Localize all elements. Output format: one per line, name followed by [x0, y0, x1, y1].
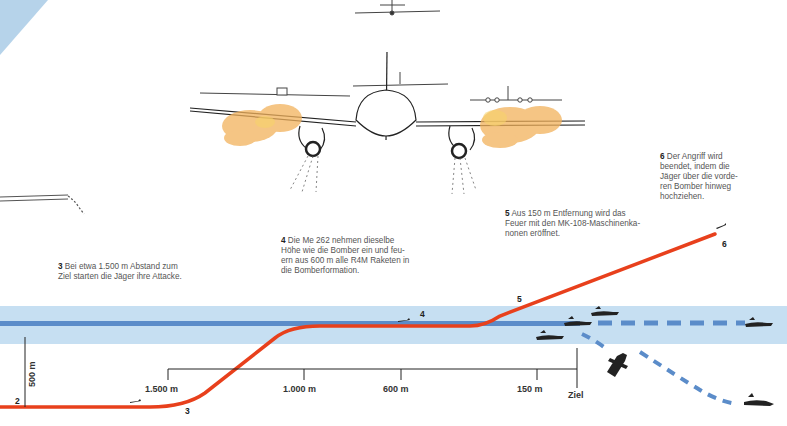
path-marker-3: 3 — [185, 406, 190, 416]
caption-line: Ziel starten die Jäger ihre Attacke. — [58, 272, 182, 281]
distance-tick-150: 150 m — [517, 384, 543, 394]
caption-step-4: 4 Die Me 262 nehmen dieselbe Höhe wie di… — [281, 236, 409, 276]
path-marker-5: 5 — [517, 294, 522, 304]
wingtip-fragment-icon — [0, 195, 84, 214]
caption-line: nonen eröffnet. — [505, 229, 560, 238]
caption-line: Aus 150 m Entfernung wird das — [511, 209, 625, 218]
caption-line: Feuer mit den MK-108-Maschinenka- — [505, 219, 640, 228]
caption-step-number: 6 — [660, 152, 665, 161]
caption-line: ren Bomber hinweg — [660, 182, 731, 191]
distance-tick-1500: 1.500 m — [145, 384, 178, 394]
caption-line: hochziehen. — [660, 192, 704, 201]
distant-bomber-icon — [355, 0, 440, 15]
distance-tick-600: 600 m — [383, 384, 409, 394]
path-marker-4: 4 — [420, 309, 425, 319]
caption-step-number: 4 — [281, 236, 286, 245]
attack-diagram-canvas — [0, 0, 787, 426]
hit-bomber-fall-dashed-line — [582, 334, 738, 404]
caption-line: ern aus 600 m alle R4M Raketen in — [281, 256, 409, 265]
distance-tick-1000: 1.000 m — [283, 384, 316, 394]
target-label: Ziel — [568, 390, 584, 400]
caption-line: Bei etwa 1.500 m Abstand zum — [65, 262, 178, 271]
caption-line: beendet, indem die — [660, 162, 730, 171]
me262-silhouette-icon — [130, 223, 726, 403]
path-marker-6: 6 — [722, 239, 727, 249]
caption-line: die Bomberformation. — [281, 266, 359, 275]
caption-line: Jäger über die vorde- — [660, 172, 738, 181]
caption-step-3: 3 Bei etwa 1.500 m Abstand zum Ziel star… — [58, 262, 182, 282]
altitude-scale-label: 500 m — [27, 361, 37, 387]
caption-line: Der Angriff wird — [667, 152, 723, 161]
caption-step-6: 6 Der Angriff wird beendet, indem die Jä… — [660, 152, 738, 202]
caption-line: Höhe wie die Bomber ein und feu- — [281, 246, 405, 255]
caption-step-5: 5 Aus 150 m Entfernung wird das Feuer mi… — [505, 209, 640, 239]
path-marker-2: 2 — [15, 396, 20, 406]
caption-step-number: 3 — [58, 262, 63, 271]
caption-line: Die Me 262 nehmen dieselbe — [288, 236, 395, 245]
caption-step-number: 5 — [505, 209, 510, 218]
distance-scale — [168, 348, 577, 388]
